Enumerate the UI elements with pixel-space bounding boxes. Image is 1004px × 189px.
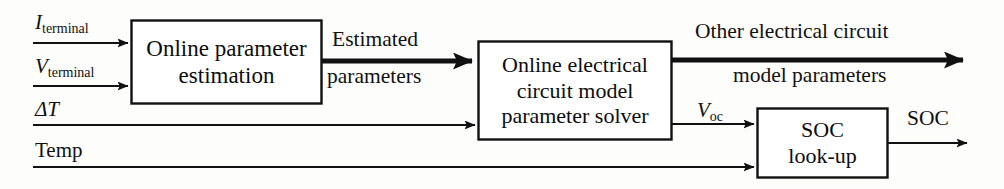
label-i-terminal-symbol: I xyxy=(35,10,42,34)
label-v-terminal: Vterminal xyxy=(35,56,94,77)
label-voc: Voc xyxy=(697,100,723,121)
label-voc-subscript: oc xyxy=(710,109,723,124)
label-soc-output: SOC xyxy=(907,108,949,130)
label-temp-symbol: Temp xyxy=(35,138,83,162)
label-estimated-parameters-bottom: parameters xyxy=(327,66,421,88)
block-label-line: circuit model xyxy=(517,78,634,104)
label-v-terminal-symbol: V xyxy=(35,54,48,78)
block-label-soc-look-up: SOC look-up xyxy=(757,108,888,178)
label-delta-t-symbol: ΔT xyxy=(35,97,59,121)
block-label-line: estimation xyxy=(179,62,275,89)
block-label-online-electrical-circuit-model-parameter-solver: Online electrical circuit model paramete… xyxy=(478,41,672,140)
label-delta-t: ΔT xyxy=(35,99,59,120)
label-other-parameters-line1: Other electrical circuit xyxy=(695,19,888,43)
block-label-line: parameter solver xyxy=(501,103,648,129)
label-i-terminal-subscript: terminal xyxy=(42,21,89,36)
label-v-terminal-subscript: terminal xyxy=(48,65,95,80)
label-other-parameters-line2: model parameters xyxy=(733,63,886,87)
label-other-parameters-bottom: model parameters xyxy=(733,65,886,87)
label-estimated-parameters-line1: Estimated xyxy=(332,27,418,51)
label-other-parameters-top: Other electrical circuit xyxy=(695,21,888,43)
label-voc-symbol: V xyxy=(697,98,710,122)
label-i-terminal: Iterminal xyxy=(35,12,89,33)
block-diagram: Iterminal Vterminal ΔT Temp Online param… xyxy=(0,0,1004,189)
block-label-line: Online electrical xyxy=(502,52,648,78)
label-soc-output-text: SOC xyxy=(907,106,949,130)
block-label-line: look-up xyxy=(788,143,856,169)
block-label-line: SOC xyxy=(801,117,844,143)
label-estimated-parameters-top: Estimated xyxy=(332,29,418,51)
block-label-online-parameter-estimation: Online parameter estimation xyxy=(131,20,322,104)
label-temp: Temp xyxy=(35,140,83,161)
block-label-line: Online parameter xyxy=(146,35,306,62)
label-estimated-parameters-line2: parameters xyxy=(327,64,421,88)
